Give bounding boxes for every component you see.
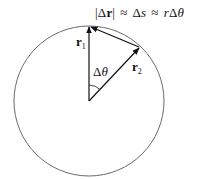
r1-label: r1 bbox=[76, 34, 86, 51]
theta-symbol: θ bbox=[178, 5, 185, 20]
delta-theta-arc bbox=[89, 85, 100, 90]
approx-symbol: ≈ bbox=[120, 5, 127, 20]
r2-label: r2 bbox=[132, 59, 142, 76]
arc-length-equation: |Δr|≈Δs≈rΔθ bbox=[95, 5, 184, 21]
circular-motion-diagram: |Δr|≈Δs≈rΔθ r1 r2 Δθ bbox=[0, 0, 205, 179]
abs-bar-close: | bbox=[112, 5, 115, 20]
delta-symbol: Δ bbox=[133, 5, 142, 20]
approx-symbol: ≈ bbox=[151, 5, 158, 20]
delta-r-chord-arrow bbox=[91, 27, 139, 47]
arc-length-s: s bbox=[141, 5, 146, 20]
delta-theta-label: Δθ bbox=[93, 64, 108, 80]
delta-symbol: Δ bbox=[169, 5, 178, 20]
diagram-svg bbox=[0, 0, 205, 179]
